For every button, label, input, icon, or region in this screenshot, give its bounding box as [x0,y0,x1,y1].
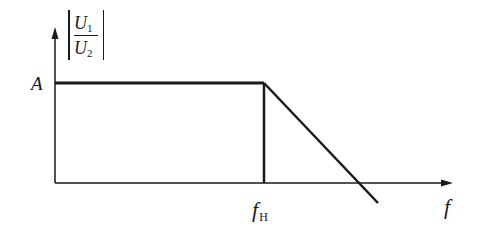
y-axis-arrow-icon [52,27,59,39]
ratio-numerator: U1 [74,14,93,32]
cutoff-frequency-label: fH [252,199,267,221]
abs-bar-left [68,10,70,60]
abs-bar-right [103,10,105,60]
rolloff-line [264,83,378,203]
x-axis-arrow-icon [441,180,453,187]
gain-level-label: A [31,74,43,93]
x-axis-label: f [444,196,450,218]
y-axis-label-ratio: U1 U2 [68,10,104,60]
fraction-line [74,35,98,36]
ratio-denominator: U2 [74,39,93,57]
